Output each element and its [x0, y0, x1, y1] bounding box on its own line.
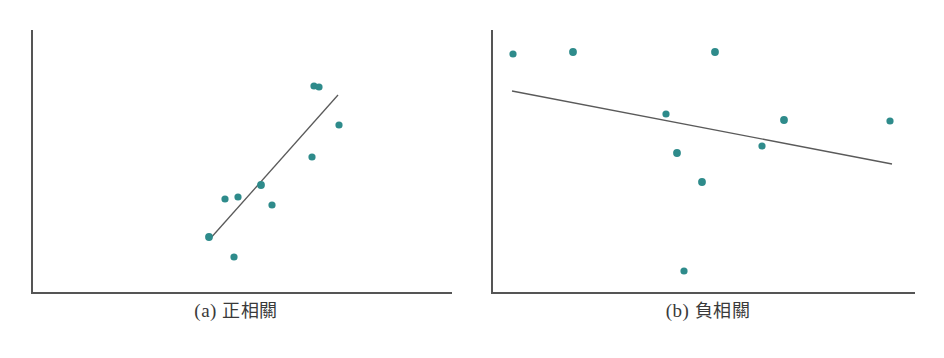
trendline-a — [209, 95, 338, 240]
axes-a — [31, 30, 452, 293]
axes-b — [491, 30, 915, 293]
data-point — [268, 201, 275, 208]
data-point — [780, 116, 788, 124]
data-point — [230, 253, 237, 260]
panel-negative-correlation: (b) 負相關 — [472, 0, 944, 358]
data-point — [234, 193, 241, 200]
caption-label-a: (a) — [194, 300, 217, 321]
data-point — [662, 110, 669, 117]
panel-positive-correlation: (a) 正相關 — [0, 0, 472, 358]
caption-label-b: (b) — [666, 300, 690, 321]
data-point — [569, 48, 577, 56]
data-points-b — [509, 48, 893, 275]
data-point — [308, 153, 315, 160]
data-points-a — [205, 82, 343, 260]
data-point — [680, 267, 687, 274]
data-point — [221, 195, 228, 202]
trend-line-a-segment — [209, 95, 338, 240]
caption-text-a: 正相關 — [222, 300, 278, 321]
data-point — [711, 48, 719, 56]
data-point — [698, 178, 706, 186]
data-point — [205, 233, 213, 241]
caption-text-b: 負相關 — [695, 300, 751, 321]
caption-panel-b: (b) 負相關 — [472, 298, 944, 324]
caption-panel-a: (a) 正相關 — [0, 298, 472, 324]
data-point — [673, 149, 681, 157]
trendline-b — [512, 91, 892, 164]
figure-root: (a) 正相關 — [0, 0, 944, 358]
data-point — [886, 117, 893, 124]
data-point — [758, 142, 765, 149]
data-point — [315, 83, 322, 90]
data-point — [335, 121, 342, 128]
trend-line-b-segment — [512, 91, 892, 164]
data-point — [257, 181, 265, 189]
data-point — [509, 50, 516, 57]
